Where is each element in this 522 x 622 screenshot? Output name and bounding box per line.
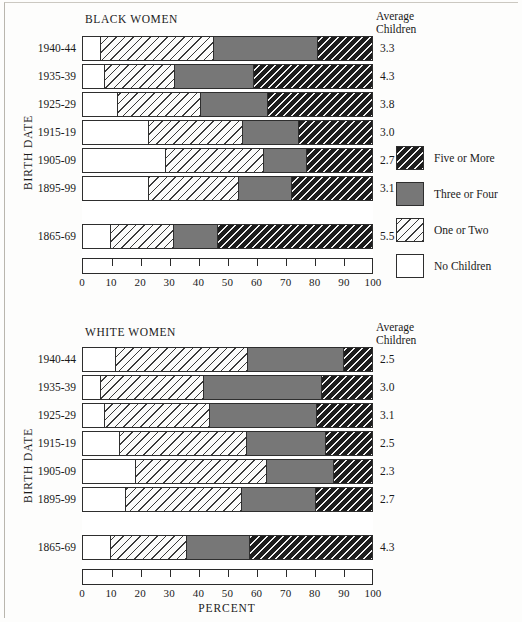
x-axis-tick-label: 80 (300, 276, 330, 288)
x-axis-band-white (82, 569, 373, 585)
x-axis-tick-label: 100 (358, 276, 388, 288)
bar-segment-none (82, 224, 111, 249)
legend-item-three-or-four[interactable]: Three or Four (396, 176, 522, 212)
panel-title-black-women: BLACK WOMEN (85, 13, 178, 25)
category-label: 1915-19 (38, 437, 76, 449)
average-header-line-2: Children (376, 23, 416, 36)
bar-segment-threefour (243, 120, 298, 145)
bar-segment-onetwo (101, 36, 215, 61)
average-children-value: 2.7 (380, 493, 394, 505)
bar-segment-onetwo (166, 148, 263, 173)
x-axis-tick (112, 570, 113, 577)
bar-segment-none (82, 64, 105, 89)
category-label: 1940-44 (38, 42, 76, 54)
bar-segment-onetwo (120, 431, 247, 456)
category-label: 1940-44 (38, 353, 76, 365)
x-axis-tick (315, 570, 316, 577)
average-children-value: 4.3 (380, 70, 394, 82)
chart-page: BLACK WOMEN Average Children BIRTH DATE … (0, 0, 522, 622)
x-axis-tick (257, 570, 258, 577)
bar-segment-five (250, 535, 373, 560)
bar-segment-threefour (248, 347, 344, 372)
bar-segment-onetwo (118, 92, 201, 117)
y-axis-title-black: BIRTH DATE (22, 115, 34, 190)
bar-row (82, 224, 373, 249)
bar-segment-threefour (214, 36, 317, 61)
panel-title-white-women: WHITE WOMEN (85, 326, 176, 338)
bar-segment-threefour (201, 92, 268, 117)
average-children-header-white: Average Children (376, 321, 416, 347)
x-axis-tick-label: 0 (67, 587, 97, 599)
x-axis-tick-label: 40 (183, 587, 213, 599)
bar-row (82, 176, 373, 201)
x-axis-tick (112, 259, 113, 266)
x-axis-tick-label: 60 (242, 587, 272, 599)
bar-segment-threefour (204, 375, 322, 400)
average-children-value: 3.3 (380, 42, 394, 54)
x-axis-title: PERCENT (162, 602, 292, 614)
chart-panel-white-women: WHITE WOMEN Average Children BIRTH DATE … (0, 313, 522, 622)
bar-row (82, 148, 373, 173)
bar-segment-none (82, 403, 105, 428)
bar-segment-five (344, 347, 373, 372)
bar-row (82, 459, 373, 484)
category-label: 1925-29 (38, 409, 76, 421)
average-children-value: 2.7 (380, 154, 394, 166)
bar-segment-onetwo (149, 120, 244, 145)
bar-segment-onetwo (101, 375, 204, 400)
bar-row (82, 487, 373, 512)
x-axis-tick-label: 20 (125, 587, 155, 599)
category-label: 1925-29 (38, 98, 76, 110)
bar-segment-onetwo (105, 64, 175, 89)
bar-segment-none (82, 120, 149, 145)
plot-area-white (82, 347, 373, 569)
bar-segment-none (82, 459, 136, 484)
average-children-value: 2.3 (380, 465, 394, 477)
bar-segment-five (318, 36, 373, 61)
bar-segment-five (218, 224, 373, 249)
legend-item-five-or-more[interactable]: Five or More (396, 140, 522, 176)
x-axis-tick (141, 570, 142, 577)
x-axis-tick-label: 10 (96, 587, 126, 599)
legend-item-one-or-two[interactable]: One or Two (396, 212, 522, 248)
category-label: 1915-19 (38, 126, 76, 138)
bar-segment-five (299, 120, 373, 145)
legend: Five or More Three or Four One or Two No… (396, 140, 522, 284)
bar-row (82, 535, 373, 560)
x-axis-tick-label: 50 (213, 587, 243, 599)
x-axis-tick (228, 570, 229, 577)
x-axis-tick-label: 90 (329, 276, 359, 288)
average-children-value: 2.5 (380, 437, 394, 449)
x-axis-tick-label: 0 (67, 276, 97, 288)
bar-segment-onetwo (111, 224, 174, 249)
average-children-value: 5.5 (380, 230, 394, 242)
one-or-two-swatch-icon (396, 218, 424, 242)
x-axis-tick (286, 259, 287, 266)
x-axis-band-black (82, 258, 373, 274)
bar-segment-onetwo (149, 176, 239, 201)
bar-segment-onetwo (105, 403, 210, 428)
average-children-value: 3.0 (380, 381, 394, 393)
bar-segment-none (82, 36, 101, 61)
average-header-line-1-white: Average (376, 321, 416, 334)
bar-rows-white (82, 347, 373, 569)
bar-segment-onetwo (116, 347, 248, 372)
average-children-value: 3.1 (380, 182, 394, 194)
x-axis-tick-label: 80 (300, 587, 330, 599)
bar-segment-five (292, 176, 373, 201)
category-label: 1895-99 (38, 493, 76, 505)
three-or-four-swatch-icon (396, 182, 424, 206)
x-axis-tick (199, 570, 200, 577)
average-children-header-black: Average Children (376, 10, 416, 36)
x-axis-tick (344, 259, 345, 266)
legend-item-no-children[interactable]: No Children (396, 248, 522, 284)
legend-label-five-or-more: Five or More (434, 152, 495, 164)
bar-segment-five (307, 148, 373, 173)
bar-row (82, 92, 373, 117)
x-axis-tick-label: 50 (213, 276, 243, 288)
bar-segment-five (268, 92, 373, 117)
bar-segment-threefour (210, 403, 317, 428)
category-label: 1865-69 (38, 541, 76, 553)
bar-segment-none (82, 176, 149, 201)
bar-segment-none (82, 92, 118, 117)
